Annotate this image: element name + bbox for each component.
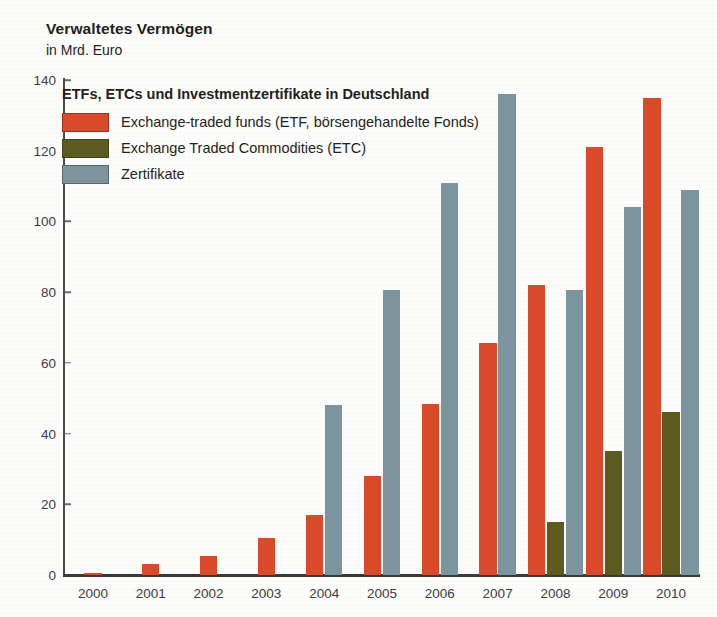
bar-zert-2005 — [383, 290, 401, 575]
legend-item-etf[interactable]: Exchange-traded funds (ETF, börsengehand… — [62, 109, 502, 135]
x-axis-tick-label: 2003 — [251, 586, 281, 601]
chart-subtitle: in Mrd. Euro — [46, 42, 122, 58]
bar-etf-2002 — [200, 556, 218, 575]
bar-etf-2001 — [142, 564, 160, 575]
x-axis-tick-label: 2005 — [367, 586, 397, 601]
bar-etf-2006 — [422, 404, 440, 575]
y-axis-tick-label: 140 — [33, 73, 56, 88]
bar-etf-2003 — [258, 538, 276, 575]
y-axis-tick-label: 0 — [48, 568, 56, 583]
legend-label-zert: Zertifikate — [121, 166, 185, 182]
y-axis-tick-label: 40 — [41, 426, 56, 441]
x-axis-tick-label: 2002 — [194, 586, 224, 601]
legend-swatch-etc — [62, 139, 109, 158]
x-axis-tick-label: 2006 — [425, 586, 455, 601]
bar-etf-2004 — [306, 515, 324, 575]
bar-zert-2009 — [624, 207, 642, 575]
x-axis-tick-label: 2001 — [136, 586, 166, 601]
x-axis-tick-label: 2004 — [309, 586, 339, 601]
y-axis-tick-label: 120 — [33, 143, 56, 158]
bar-etc-2009 — [605, 451, 623, 575]
legend-title: ETFs, ETCs und Investmentzertifikate in … — [62, 86, 502, 102]
bar-zert-2004 — [325, 405, 343, 575]
bar-etf-2005 — [364, 476, 382, 575]
legend-item-etc[interactable]: Exchange Traded Commodities (ETC) — [62, 135, 502, 161]
bar-etf-2008 — [528, 285, 546, 575]
bar-zert-2008 — [566, 290, 584, 575]
x-axis-tick-label: 2008 — [540, 586, 570, 601]
bar-etf-2000 — [84, 573, 102, 575]
y-axis-tick-label: 60 — [41, 355, 56, 370]
bar-zert-2006 — [441, 183, 459, 575]
y-axis-tick-label: 100 — [33, 214, 56, 229]
legend-swatch-zert — [62, 165, 109, 184]
y-axis-tick-label: 80 — [41, 285, 56, 300]
bar-etf-2007 — [479, 343, 497, 575]
bar-etf-2009 — [586, 147, 604, 575]
page-title: Verwaltetes Vermögen — [46, 20, 213, 38]
legend-item-zert[interactable]: Zertifikate — [62, 161, 502, 187]
x-axis-tick-label: 2007 — [483, 586, 513, 601]
legend-rows: Exchange-traded funds (ETF, börsengehand… — [62, 109, 502, 187]
y-axis-tick-label: 20 — [41, 497, 56, 512]
legend-swatch-etf — [62, 113, 109, 132]
chart-page: Verwaltetes Vermögen in Mrd. Euro 020406… — [0, 0, 717, 617]
legend-label-etf: Exchange-traded funds (ETF, börsengehand… — [121, 114, 479, 130]
bar-etc-2010 — [662, 412, 680, 575]
x-axis-tick-label: 2010 — [656, 586, 686, 601]
bar-zert-2010 — [681, 190, 699, 575]
x-axis-tick-label: 2000 — [78, 586, 108, 601]
x-axis-tick-label: 2009 — [598, 586, 628, 601]
bar-etf-2010 — [643, 98, 661, 575]
bar-etc-2008 — [547, 522, 565, 575]
y-axis-tick-labels: 020406080100120140 — [0, 0, 56, 617]
legend-label-etc: Exchange Traded Commodities (ETC) — [121, 140, 366, 156]
legend: ETFs, ETCs und Investmentzertifikate in … — [62, 86, 502, 187]
